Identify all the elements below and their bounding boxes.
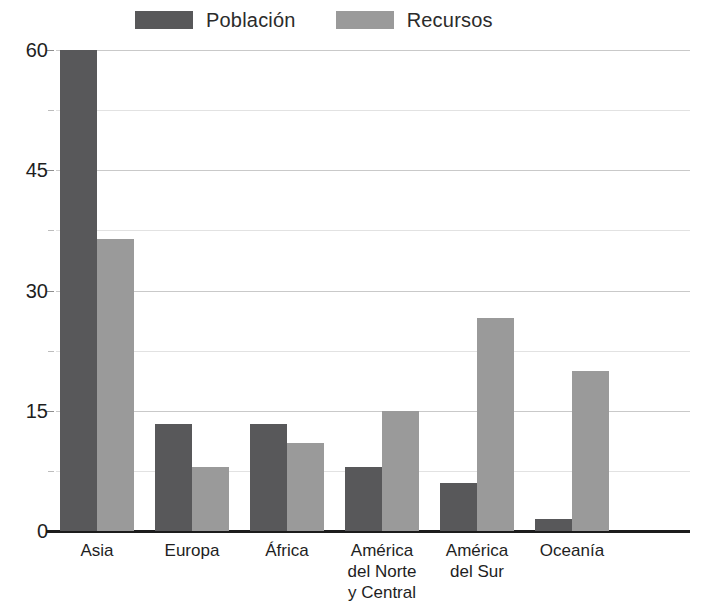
bar-group-container: [56, 50, 690, 531]
y-axis-label: 30: [4, 279, 48, 302]
y-axis-labels: 604530150: [0, 0, 48, 607]
y-axis-label: 60: [4, 39, 48, 62]
bar-poblacion: [535, 519, 572, 531]
x-axis-label: Américadel Sur: [430, 540, 525, 582]
x-axis-label-line: Oceanía: [525, 540, 620, 561]
bar-poblacion: [60, 50, 97, 531]
y-axis-label: 15: [4, 399, 48, 422]
x-axis-label-line: América: [430, 540, 525, 561]
bar-poblacion: [440, 483, 477, 531]
bar-poblacion: [155, 424, 192, 531]
x-axis-label-line: África: [240, 540, 335, 561]
x-axis-label-line: Europa: [145, 540, 240, 561]
x-axis-label: Oceanía: [525, 540, 620, 561]
y-axis-tick-minor: [48, 230, 54, 231]
x-axis-label: Europa: [145, 540, 240, 561]
y-axis-label: 45: [4, 159, 48, 182]
bar-recursos: [477, 318, 514, 531]
y-axis-tick-minor: [48, 471, 54, 472]
bar-poblacion: [345, 467, 382, 531]
bar-recursos: [192, 467, 229, 531]
x-axis-label-line: del Sur: [430, 561, 525, 582]
x-axis-labels: AsiaEuropaÁfricaAméricadel Nortey Centra…: [56, 540, 690, 607]
y-axis-tick-minor: [48, 110, 54, 111]
y-axis-tick-minor: [48, 351, 54, 352]
bar-poblacion: [250, 424, 287, 531]
bar-recursos: [287, 443, 324, 531]
x-axis-label: África: [240, 540, 335, 561]
y-axis-label: 0: [4, 520, 48, 543]
x-axis-label-line: América: [335, 540, 430, 561]
x-axis-label-line: del Norte: [335, 561, 430, 582]
bar-recursos: [572, 371, 609, 531]
x-axis-label-line: y Central: [335, 582, 430, 603]
x-axis-label: Asia: [50, 540, 145, 561]
bar-recursos: [382, 411, 419, 531]
x-axis-label-line: Asia: [50, 540, 145, 561]
bar-chart: 604530150 AsiaEuropaÁfricaAméricadel Nor…: [0, 0, 707, 607]
bar-recursos: [97, 239, 134, 531]
x-axis-label: Américadel Nortey Central: [335, 540, 430, 603]
